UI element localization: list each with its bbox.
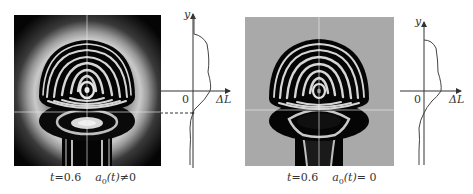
caption-left-a-rel: ≠0 [120, 171, 136, 184]
y-axis-label-left: y [183, 8, 191, 21]
profile-plot-right: y 0 ΔL [400, 15, 464, 165]
caption-right-t-value: =0.6 [291, 171, 318, 184]
profile-plot-left: y 0 ΔL [160, 8, 231, 168]
profile-curve-right [419, 40, 441, 165]
caption-right-a-rel: = 0 [357, 171, 377, 184]
x-axis-label-right: ΔL [448, 93, 464, 106]
caption-right: t=0.6 a0(t)= 0 [287, 171, 377, 186]
caption-right-a-arg: (t) [344, 171, 357, 184]
fringe-image-right [245, 17, 394, 166]
fringe-image-left [14, 15, 161, 166]
x-axis-label-left: ΔL [215, 93, 231, 106]
fringe-pattern-left [14, 15, 161, 166]
caption-left: t=0.6 a0(t)≠0 [50, 171, 136, 186]
fringe-pattern-right [245, 17, 394, 166]
caption-left-t-value: =0.6 [54, 171, 81, 184]
y-axis-label-right: y [414, 15, 422, 28]
caption-left-a-arg: (t) [107, 171, 120, 184]
marker-dot-left [192, 112, 195, 115]
origin-label-left: 0 [182, 93, 189, 106]
origin-label-right: 0 [414, 93, 421, 106]
profile-curve-left [190, 16, 211, 165]
